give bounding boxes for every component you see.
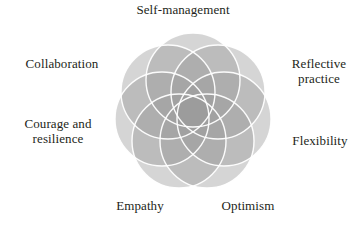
label-flexibility: Flexibility	[278, 134, 362, 149]
label-self-management: Self-management	[108, 3, 258, 18]
label-reflective-practice: Reflective practice	[276, 57, 362, 86]
label-collaboration: Collaboration	[4, 57, 120, 72]
figure-container: Self-management Collaboration Courage an…	[0, 0, 363, 231]
label-optimism: Optimism	[200, 199, 296, 214]
label-empathy: Empathy	[94, 199, 186, 214]
label-courage-and-resilience: Courage and resilience	[2, 117, 114, 146]
